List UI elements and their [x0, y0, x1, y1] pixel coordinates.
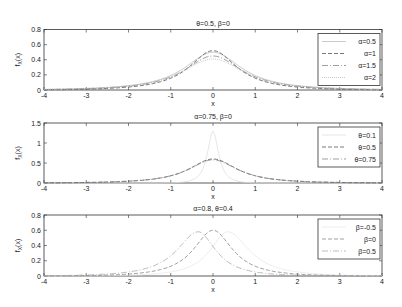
chart-title: α=0.8, θ=0.4	[193, 205, 233, 212]
x-axis-label: x	[211, 286, 215, 293]
y-tick-label: 0.8	[31, 212, 41, 219]
legend: α=0.5α=1α=1.5α=2	[318, 34, 380, 86]
x-tick-label: 3	[338, 185, 342, 192]
x-tick-label: 1	[253, 185, 257, 192]
x-tick-label: -2	[125, 92, 131, 99]
y-tick-label: 0.8	[31, 26, 41, 33]
x-tick-label: 1	[253, 278, 257, 285]
legend-entry: β=-0.5	[356, 224, 376, 232]
x-tick-label: -2	[125, 185, 131, 192]
legend-entry: α=1	[364, 50, 376, 57]
legend-entry: α=0.5	[358, 38, 376, 45]
y-tick-label: 0.4	[31, 56, 41, 63]
x-tick-label: 3	[338, 92, 342, 99]
chart-panel-3: -4-3-2-10123400.20.40.60.8α=0.8, θ=0.4xf…	[14, 205, 384, 293]
y-tick-label: 0.6	[31, 227, 41, 234]
legend-entry: α=2	[364, 74, 376, 81]
y-tick-label: 0.5	[31, 160, 41, 167]
legend-entry: β=0	[364, 236, 376, 244]
x-tick-label: -4	[41, 185, 47, 192]
chart-title: α=0.75, β=0	[194, 113, 232, 121]
y-tick-label: 0.2	[31, 257, 41, 264]
y-tick-label: 1	[37, 140, 41, 147]
x-tick-label: 3	[338, 278, 342, 285]
x-tick-label: -1	[168, 278, 174, 285]
x-axis-label: x	[211, 193, 215, 200]
x-tick-label: -1	[168, 92, 174, 99]
y-tick-label: 1.5	[31, 120, 41, 127]
x-tick-label: 4	[380, 278, 384, 285]
x-axis-label: x	[211, 100, 215, 107]
legend-entry: β=0.5	[358, 248, 376, 256]
x-tick-label: 2	[296, 92, 300, 99]
x-tick-label: -3	[83, 92, 89, 99]
y-tick-label: 0	[37, 180, 41, 187]
y-tick-label: 0.2	[31, 71, 41, 78]
x-tick-label: 1	[253, 92, 257, 99]
x-tick-label: 4	[380, 185, 384, 192]
y-axis-label: fX(x)	[14, 53, 23, 66]
chart-panel-2: -4-3-2-10123400.511.5α=0.75, β=0xfX(x)θ=…	[14, 113, 384, 200]
x-tick-label: 0	[211, 185, 215, 192]
x-tick-label: 2	[296, 185, 300, 192]
legend: β=-0.5β=0β=0.5	[318, 219, 380, 259]
y-tick-label: 0	[37, 87, 41, 94]
chart-panel-1: -4-3-2-10123400.20.40.60.8θ=0.5, β=0xfX(…	[14, 20, 384, 108]
chart-title: θ=0.5, β=0	[196, 20, 230, 28]
x-tick-label: -1	[168, 185, 174, 192]
x-tick-label: 0	[211, 278, 215, 285]
x-tick-label: -4	[41, 92, 47, 99]
x-tick-label: -4	[41, 278, 47, 285]
legend-entry: θ=0.1	[358, 132, 376, 139]
x-tick-label: 0	[211, 92, 215, 99]
y-tick-label: 0.6	[31, 41, 41, 48]
y-tick-label: 0.4	[31, 242, 41, 249]
legend: θ=0.1θ=0.5θ=0.75	[318, 127, 380, 167]
legend-entry: θ=0.75	[354, 156, 376, 163]
y-axis-label: fX(x)	[14, 146, 23, 159]
x-tick-label: 2	[296, 278, 300, 285]
figure: -4-3-2-10123400.20.40.60.8θ=0.5, β=0xfX(…	[0, 0, 402, 307]
legend-entry: θ=0.5	[358, 144, 376, 151]
y-tick-label: 0	[37, 273, 41, 280]
y-axis-label: fX(x)	[14, 239, 23, 252]
x-tick-label: 4	[380, 92, 384, 99]
legend-entry: α=1.5	[358, 62, 376, 69]
x-tick-label: -3	[83, 185, 89, 192]
x-tick-label: -3	[83, 278, 89, 285]
x-tick-label: -2	[125, 278, 131, 285]
